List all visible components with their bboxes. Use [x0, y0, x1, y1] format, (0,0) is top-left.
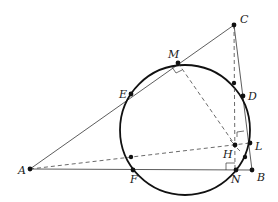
right-angle-mark-N	[226, 163, 235, 170]
point-M	[176, 61, 181, 66]
label-M: M	[167, 48, 180, 61]
point-F	[131, 168, 136, 173]
dashed-altitude-from-C	[234, 25, 235, 170]
dashed-segment-MH	[178, 63, 235, 145]
tick-mark	[237, 148, 240, 151]
right-angle-mark-L	[237, 131, 244, 137]
point-L	[248, 141, 253, 146]
point-A	[28, 167, 33, 172]
geometry-diagram: A B C M E D F N H L	[0, 0, 278, 202]
segment-AB	[30, 169, 252, 170]
label-B: B	[256, 171, 265, 184]
point-circle-AL	[129, 155, 133, 159]
point-D	[241, 94, 246, 99]
point-E	[129, 92, 134, 97]
point-B	[250, 168, 255, 173]
label-H: H	[222, 148, 233, 161]
label-L: L	[254, 140, 262, 153]
point-circle-lower	[243, 155, 247, 159]
label-E: E	[118, 88, 127, 101]
label-N: N	[230, 173, 241, 186]
point-H	[233, 143, 238, 148]
segment-AC	[30, 25, 234, 169]
point-circle-altitude	[232, 81, 236, 85]
point-N	[234, 168, 239, 173]
point-C	[232, 23, 237, 28]
label-D: D	[247, 90, 257, 103]
label-A: A	[17, 164, 26, 177]
dashed-segment-AL	[30, 143, 250, 169]
label-F: F	[129, 173, 138, 186]
label-C: C	[240, 13, 249, 26]
